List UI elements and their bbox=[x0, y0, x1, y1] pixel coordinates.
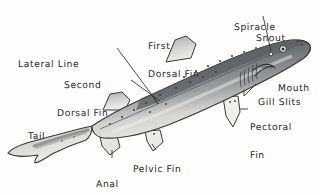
label-second-dorsal-fin: Second Dorsal Fin bbox=[57, 62, 108, 137]
shark-anatomy-figure: Spiracle Snout First Dorsal Fin Lateral … bbox=[0, 0, 320, 195]
label-pelvic-fin-text: Pelvic Fin bbox=[133, 165, 181, 174]
label-anal-fin: Anal Fin bbox=[96, 161, 119, 195]
label-anal-fin-line1: Anal bbox=[96, 180, 119, 189]
label-second-dorsal-fin-line1: Second bbox=[57, 81, 108, 90]
label-first-dorsal-fin-line1: First bbox=[148, 42, 199, 51]
label-first-dorsal-fin: First Dorsal Fin bbox=[148, 23, 199, 98]
label-second-dorsal-fin-line2: Dorsal Fin bbox=[57, 109, 108, 118]
anal-fin bbox=[100, 136, 120, 155]
label-pectoral-fin-line1: Pectoral bbox=[250, 123, 292, 132]
label-tail: Tail bbox=[28, 113, 45, 160]
pectoral-fin bbox=[223, 96, 240, 127]
label-tail-text: Tail bbox=[28, 132, 45, 141]
label-pelvic-fin: Pelvic Fin bbox=[133, 146, 181, 193]
label-first-dorsal-fin-line2: Dorsal Fin bbox=[148, 70, 199, 79]
label-snout: Snout bbox=[256, 15, 286, 62]
label-pectoral-fin-line2: Fin bbox=[250, 151, 292, 160]
label-snout-text: Snout bbox=[256, 34, 286, 43]
label-pectoral-fin: Pectoral Fin bbox=[250, 104, 292, 179]
